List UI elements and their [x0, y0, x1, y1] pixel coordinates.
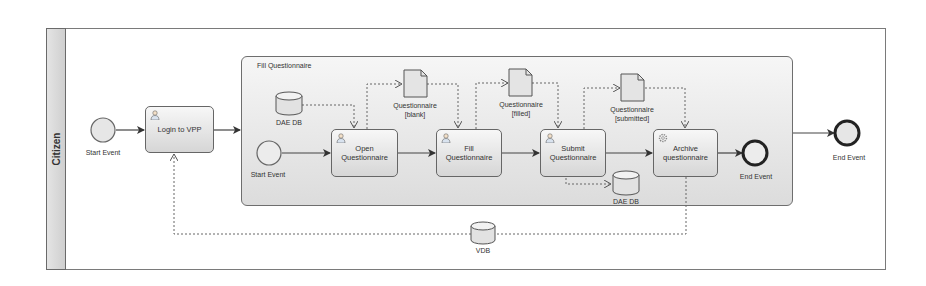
data-object-label-blank: Questionnaire [blank] — [393, 101, 437, 119]
task-archive-questionnaire[interactable]: Archive questionnaire — [653, 129, 718, 177]
user-icon — [545, 133, 555, 143]
data-object-label-filled: Questionnaire [filled] — [499, 100, 543, 118]
task-label: Submit Questionnaire — [550, 144, 597, 163]
task-fill-questionnaire[interactable]: Fill Questionnaire — [436, 129, 502, 177]
data-object-questionnaire-submitted[interactable] — [621, 74, 644, 101]
start-event-inner[interactable] — [257, 141, 281, 165]
data-object-questionnaire-blank[interactable] — [404, 70, 427, 97]
task-label: Fill Questionnaire — [446, 144, 493, 163]
task-label: Archive questionnaire — [663, 144, 708, 163]
data-store-label-vdb: VDB — [476, 246, 490, 255]
data-store-label-dae-db-2: DAE DB — [613, 197, 639, 206]
data-store-dae-db-1[interactable] — [276, 92, 302, 115]
task-label: Login to VPP — [158, 125, 202, 134]
user-icon — [336, 133, 346, 143]
task-login-to-vpp[interactable]: Login to VPP — [145, 106, 214, 153]
task-submit-questionnaire[interactable]: Submit Questionnaire — [540, 129, 606, 177]
end-event-outer-label: End Event — [833, 153, 865, 162]
start-event-inner-label: Start Event — [251, 170, 286, 179]
task-label: Open Questionnaire — [341, 144, 388, 163]
user-icon — [441, 133, 451, 143]
end-event-outer[interactable] — [835, 121, 859, 145]
data-object-questionnaire-filled[interactable] — [509, 69, 532, 96]
end-event-inner-label: End Event — [740, 172, 772, 181]
start-event-outer[interactable] — [91, 118, 115, 142]
start-event-outer-label: Start Event — [86, 148, 121, 157]
data-store-label-dae-db-1: DAE DB — [276, 118, 302, 127]
gear-icon — [658, 133, 668, 143]
user-icon — [150, 110, 160, 120]
end-event-inner[interactable] — [743, 141, 767, 165]
data-store-dae-db-2[interactable] — [613, 171, 639, 195]
bpmn-canvas: Citizen Fill Questionnaire — [0, 0, 926, 286]
data-object-label-submitted: Questionnaire [submitted] — [610, 105, 654, 123]
data-store-vdb[interactable] — [471, 222, 495, 244]
task-open-questionnaire[interactable]: Open Questionnaire — [331, 129, 398, 177]
